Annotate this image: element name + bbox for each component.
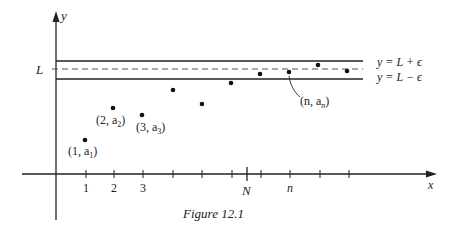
limit-label-L: L [35,62,43,77]
point-5 [200,102,205,107]
y-axis-arrow-icon [53,11,60,22]
point-3 [140,113,145,118]
point-4 [171,88,176,93]
x-axis-arrow-icon [426,171,437,178]
tick-label-n: n [287,181,293,195]
figure-canvas: y x 1 2 3 N n L y = L + ϵ y = L − ϵ [0,0,454,229]
tick-label-2: 2 [111,181,117,195]
x-axis-label: x [427,178,434,192]
figure-caption: Figure 12.1 [182,206,244,221]
point-label-3: (3, a3) [136,120,165,136]
point-n [287,70,292,75]
point-6 [229,81,234,86]
tick-label-N: N [241,183,252,198]
point-label-2: (2, a2) [96,113,125,129]
point-2 [111,106,116,111]
point-1 [83,138,88,143]
point-7 [258,72,263,77]
tick-label-3: 3 [140,181,146,195]
lower-line-label: y = L − ϵ [376,70,423,84]
tick-label-1: 1 [83,181,89,195]
y-axis-label: y [59,8,67,23]
upper-line-label: y = L + ϵ [376,55,423,69]
point-9 [316,63,321,68]
point-10 [345,69,350,74]
point-label-n: (n, an) [300,94,329,110]
point-label-1: (1, a1) [68,144,97,160]
